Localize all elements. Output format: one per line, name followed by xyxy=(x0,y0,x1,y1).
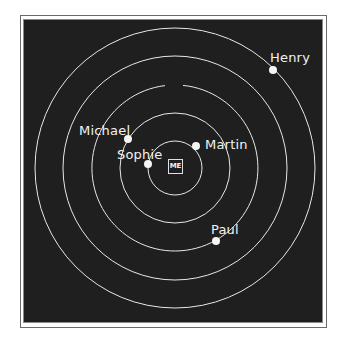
label-michael: Michael xyxy=(79,124,130,137)
dot-martin[interactable] xyxy=(192,142,200,150)
label-martin: Martin xyxy=(205,138,248,151)
label-henry: Henry xyxy=(270,51,310,64)
dot-paul[interactable] xyxy=(212,237,220,245)
me-center-box: ME xyxy=(168,159,183,174)
dot-henry[interactable] xyxy=(269,66,277,74)
label-paul: Paul xyxy=(211,223,239,236)
label-sophie: Sophie xyxy=(117,148,163,161)
